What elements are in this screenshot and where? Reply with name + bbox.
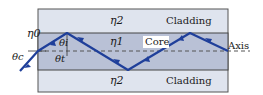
theta-c-label: θc: [12, 51, 24, 62]
cladding-bottom-index: η2: [110, 74, 124, 87]
cladding-bottom-label: Cladding: [166, 75, 212, 86]
outside-index: η0: [27, 27, 41, 40]
fiber-diagram: η2 Cladding η1 Core Axis η2 Cladding η0 …: [0, 0, 263, 95]
theta-i-label: θi: [59, 37, 68, 48]
theta-t-label: θt: [55, 53, 66, 64]
cladding-top-index: η2: [110, 14, 124, 27]
core-label: Core: [145, 36, 169, 47]
axis-label: Axis: [227, 40, 249, 51]
cladding-top-label: Cladding: [166, 15, 212, 26]
core-index: η1: [110, 35, 124, 48]
